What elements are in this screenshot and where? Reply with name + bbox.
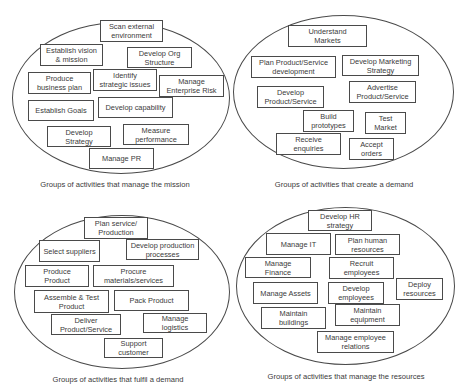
activity-box: Manage IT — [266, 233, 331, 255]
activity-box: Manage Assets — [253, 282, 318, 304]
activity-box: Develop employees — [328, 282, 384, 304]
activity-box: Maintain equipment — [335, 304, 400, 326]
activity-box: Plan human resources — [335, 234, 400, 255]
activity-box: Deploy resources — [396, 278, 443, 300]
activity-box: Recruit employees — [329, 257, 394, 279]
activity-box: Manage Finance — [245, 257, 311, 278]
activity-box: Manage employee relations — [317, 331, 394, 353]
activity-box: Develop HR strategy — [308, 210, 372, 231]
group-caption: Groups of activities that manage the res… — [267, 372, 424, 381]
group-manage-resources: Develop HR strategy Manage IT Plan human… — [0, 0, 462, 392]
activity-box: Maintain buildings — [261, 307, 326, 329]
